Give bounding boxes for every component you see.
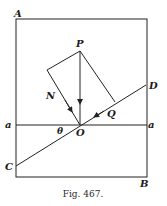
label-a-right: a	[148, 119, 154, 130]
diagram: A P D N Q a a θ O C B Fig. 467.	[0, 0, 167, 206]
label-b: B	[139, 178, 148, 189]
label-p: P	[75, 38, 84, 49]
label-theta: θ	[57, 126, 63, 136]
force-parallelogram	[47, 51, 115, 102]
label-n: N	[45, 90, 56, 101]
label-q: Q	[107, 108, 116, 119]
q-arrow	[94, 111, 104, 117]
label-a-corner: A	[13, 8, 22, 19]
n-arrow	[65, 100, 72, 112]
label-o: O	[76, 127, 85, 138]
label-a-left: a	[5, 119, 11, 130]
figure-caption: Fig. 467.	[63, 189, 104, 199]
label-d: D	[148, 80, 158, 91]
label-c: C	[5, 161, 13, 172]
